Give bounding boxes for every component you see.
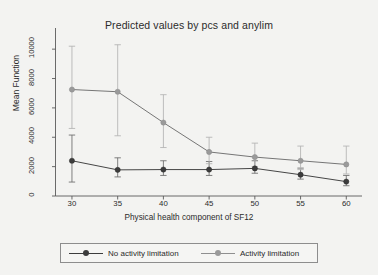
data-point-marker[interactable] — [207, 149, 212, 154]
legend-marker-icon — [201, 248, 235, 258]
data-point-marker[interactable] — [69, 87, 74, 92]
legend-label: Activity limitation — [240, 249, 299, 258]
data-point-marker[interactable] — [298, 172, 303, 177]
x-axis-tick-label: 30 — [57, 199, 87, 208]
data-point-marker[interactable] — [115, 89, 120, 94]
x-axis-tick-label: 40 — [148, 199, 178, 208]
legend-label: No activity limitation — [108, 249, 179, 258]
data-point-marker[interactable] — [115, 167, 120, 172]
x-axis-tick-label: 60 — [331, 199, 361, 208]
data-point-marker[interactable] — [298, 158, 303, 163]
legend-item-activity-limitation[interactable]: Activity limitation — [201, 244, 299, 262]
data-point-marker[interactable] — [69, 158, 74, 163]
x-axis-tick-label: 35 — [103, 199, 133, 208]
data-point-marker[interactable] — [207, 167, 212, 172]
legend-item-no-activity-limitation[interactable]: No activity limitation — [69, 244, 179, 262]
data-point-marker[interactable] — [252, 154, 257, 159]
legend-marker-icon — [69, 248, 103, 258]
chart-legend: No activity limitation Activity limitati… — [60, 243, 318, 263]
data-point-marker[interactable] — [161, 120, 166, 125]
data-point-marker[interactable] — [161, 167, 166, 172]
data-point-marker[interactable] — [252, 166, 257, 171]
x-axis-tick-label: 55 — [286, 199, 316, 208]
chart-figure: Predicted values by pcs and anylim Mean … — [0, 0, 378, 275]
data-point-marker[interactable] — [344, 162, 349, 167]
data-point-marker[interactable] — [344, 179, 349, 184]
x-axis-tick-label: 50 — [240, 199, 270, 208]
plot-area — [0, 0, 378, 275]
y-axis-tick-label: 10000 — [26, 28, 35, 68]
x-axis-tick-label: 45 — [194, 199, 224, 208]
